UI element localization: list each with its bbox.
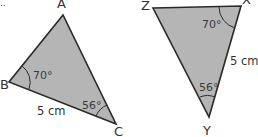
side-label-xy: 5 cm: [230, 54, 258, 68]
side-label-bc: 5 cm: [37, 104, 66, 118]
triangle-zxy-shape: [153, 6, 241, 117]
vertex-label-z: Z: [141, 0, 150, 13]
vertex-label-x: X: [242, 0, 251, 7]
angle-label-c: 56°: [82, 99, 102, 112]
vertex-label-c: C: [114, 124, 123, 137]
angle-label-y: 56°: [199, 81, 219, 94]
triangle-zxy: Z X Y 70° 56° 5 cm: [141, 0, 258, 137]
triangle-abc: A B C 70° 56° 5 cm: [0, 0, 123, 137]
angle-label-x: 70°: [202, 18, 222, 31]
congruent-triangles-diagram: .. A B C 70° 56° 5 cm Z X Y 70° 56° 5 cm: [0, 0, 258, 137]
angle-label-b: 70°: [33, 69, 53, 82]
ellipsis-marker: ..: [0, 0, 6, 8]
vertex-label-y: Y: [202, 123, 211, 137]
vertex-label-a: A: [57, 0, 66, 11]
vertex-label-b: B: [0, 77, 9, 92]
